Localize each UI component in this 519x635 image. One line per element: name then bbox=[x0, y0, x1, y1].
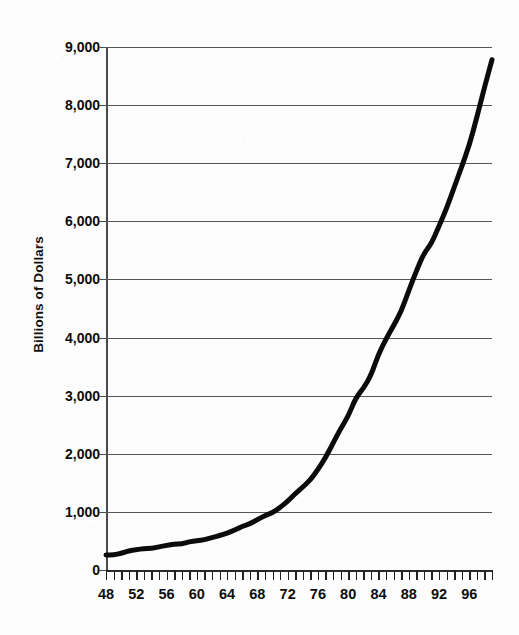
x-tick-mark-73 bbox=[295, 570, 296, 580]
x-tick-mark-75 bbox=[310, 570, 311, 580]
y-tick-label-6000: 6,000 bbox=[44, 213, 100, 229]
x-tick-label-60: 60 bbox=[189, 586, 205, 602]
y-tick-mark-9000 bbox=[99, 47, 106, 48]
x-tick-mark-97 bbox=[477, 570, 478, 580]
x-tick-mark-48 bbox=[106, 570, 107, 580]
x-tick-label-68: 68 bbox=[249, 586, 265, 602]
y-tick-mark-0 bbox=[99, 570, 106, 571]
y-tick-mark-1000 bbox=[99, 512, 106, 513]
x-tick-mark-85 bbox=[386, 570, 387, 580]
x-tick-mark-82 bbox=[363, 570, 364, 580]
y-tick-mark-3000 bbox=[99, 396, 106, 397]
x-tick-label-56: 56 bbox=[158, 586, 174, 602]
x-tick-label-92: 92 bbox=[431, 586, 447, 602]
x-tick-mark-78 bbox=[333, 570, 334, 580]
x-tick-mark-93 bbox=[447, 570, 448, 580]
x-tick-mark-74 bbox=[303, 570, 304, 580]
x-tick-mark-90 bbox=[424, 570, 425, 580]
x-tick-mark-55 bbox=[159, 570, 160, 580]
x-tick-mark-52 bbox=[136, 570, 137, 580]
x-tick-mark-64 bbox=[227, 570, 228, 580]
y-tick-label-0: 0 bbox=[44, 562, 100, 578]
x-tick-mark-70 bbox=[273, 570, 274, 580]
chart-figure: Billions of Dollars 01,0002,0003,0004,00… bbox=[0, 0, 519, 635]
x-tick-mark-96 bbox=[469, 570, 470, 580]
x-tick-mark-65 bbox=[235, 570, 236, 580]
x-axis-tick-labels: 48525660646872768084889296 bbox=[0, 586, 519, 610]
x-tick-mark-79 bbox=[341, 570, 342, 580]
x-tick-mark-99 bbox=[492, 570, 493, 580]
x-tick-mark-84 bbox=[378, 570, 379, 580]
x-tick-mark-92 bbox=[439, 570, 440, 580]
data-series-line bbox=[106, 47, 492, 570]
x-tick-mark-91 bbox=[431, 570, 432, 580]
x-tick-mark-76 bbox=[318, 570, 319, 580]
x-tick-mark-61 bbox=[204, 570, 205, 580]
x-tick-mark-56 bbox=[167, 570, 168, 580]
x-tick-mark-87 bbox=[401, 570, 402, 580]
x-tick-label-72: 72 bbox=[280, 586, 296, 602]
x-tick-mark-94 bbox=[454, 570, 455, 580]
x-tick-label-76: 76 bbox=[310, 586, 326, 602]
x-tick-label-52: 52 bbox=[128, 586, 144, 602]
y-tick-mark-4000 bbox=[99, 338, 106, 339]
x-tick-mark-53 bbox=[144, 570, 145, 580]
x-tick-mark-49 bbox=[114, 570, 115, 580]
x-tick-label-80: 80 bbox=[340, 586, 356, 602]
x-tick-mark-66 bbox=[242, 570, 243, 580]
x-tick-mark-89 bbox=[416, 570, 417, 580]
x-tick-mark-98 bbox=[484, 570, 485, 580]
x-tick-mark-69 bbox=[265, 570, 266, 580]
y-tick-label-4000: 4,000 bbox=[44, 330, 100, 346]
plot-area bbox=[106, 47, 492, 570]
y-axis-tick-labels: 01,0002,0003,0004,0005,0006,0007,0008,00… bbox=[40, 0, 100, 635]
x-tick-mark-81 bbox=[356, 570, 357, 580]
x-tick-mark-77 bbox=[325, 570, 326, 580]
y-tick-mark-6000 bbox=[99, 221, 106, 222]
x-tick-mark-57 bbox=[174, 570, 175, 580]
x-tick-mark-62 bbox=[212, 570, 213, 580]
x-tick-mark-95 bbox=[462, 570, 463, 580]
x-tick-mark-60 bbox=[197, 570, 198, 580]
y-tick-label-5000: 5,000 bbox=[44, 271, 100, 287]
x-tick-mark-83 bbox=[371, 570, 372, 580]
x-tick-mark-88 bbox=[409, 570, 410, 580]
x-axis-ticks bbox=[106, 570, 492, 581]
x-tick-mark-59 bbox=[189, 570, 190, 580]
x-tick-mark-67 bbox=[250, 570, 251, 580]
y-tick-label-1000: 1,000 bbox=[44, 504, 100, 520]
y-tick-mark-2000 bbox=[99, 454, 106, 455]
y-tick-label-2000: 2,000 bbox=[44, 446, 100, 462]
y-tick-label-8000: 8,000 bbox=[44, 97, 100, 113]
x-tick-label-88: 88 bbox=[401, 586, 417, 602]
x-tick-mark-51 bbox=[129, 570, 130, 580]
x-tick-label-84: 84 bbox=[370, 586, 386, 602]
y-tick-mark-7000 bbox=[99, 163, 106, 164]
y-tick-mark-8000 bbox=[99, 105, 106, 106]
x-tick-mark-58 bbox=[182, 570, 183, 580]
x-tick-mark-71 bbox=[280, 570, 281, 580]
x-tick-mark-80 bbox=[348, 570, 349, 580]
x-tick-mark-50 bbox=[121, 570, 122, 580]
x-tick-label-64: 64 bbox=[219, 586, 235, 602]
x-tick-label-48: 48 bbox=[98, 586, 114, 602]
y-tick-label-3000: 3,000 bbox=[44, 388, 100, 404]
y-tick-mark-5000 bbox=[99, 279, 106, 280]
y-tick-label-9000: 9,000 bbox=[44, 39, 100, 55]
x-tick-mark-54 bbox=[151, 570, 152, 580]
x-tick-mark-63 bbox=[220, 570, 221, 580]
x-tick-mark-68 bbox=[257, 570, 258, 580]
x-tick-mark-72 bbox=[288, 570, 289, 580]
x-tick-mark-86 bbox=[394, 570, 395, 580]
y-tick-label-7000: 7,000 bbox=[44, 155, 100, 171]
x-tick-label-96: 96 bbox=[461, 586, 477, 602]
